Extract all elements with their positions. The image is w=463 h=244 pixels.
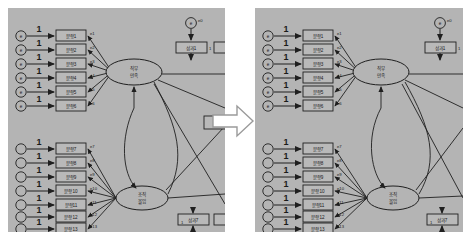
weight-label: 1 — [36, 137, 41, 147]
structural-path — [168, 194, 225, 198]
error-tag: e8 — [90, 158, 95, 163]
error-label: e — [190, 21, 193, 26]
weight-label: 1 — [36, 179, 41, 189]
error-tag: e7 — [90, 144, 95, 149]
error-tag: e10 — [337, 186, 345, 191]
error-tag: e13 — [90, 224, 98, 229]
error-tag: e2 — [90, 45, 95, 50]
weight-label: 1 — [283, 165, 288, 175]
latent-factor-label-line1: 조직 — [138, 191, 146, 198]
weight-label: 1 — [283, 80, 288, 90]
error-tag: e9 — [337, 172, 342, 177]
error-circle-e7[interactable] — [16, 144, 26, 154]
weight-label: 1 — [283, 205, 288, 215]
error-tag: e11 — [337, 200, 344, 205]
error-circle-e12[interactable] — [16, 212, 26, 222]
error-circle-e9[interactable] — [16, 172, 26, 182]
indicator-label: 문항2 — [66, 47, 77, 53]
error-tag: e0 — [447, 18, 452, 23]
error-tag: e3 — [337, 59, 342, 64]
latent-factor-label-line1: 직무 — [130, 65, 138, 72]
diagram-panel-initial: e e e e e e 1 1 1 1 1 1 — [8, 8, 225, 232]
factor-covariance-curve — [371, 108, 385, 188]
error-tag: e2 — [337, 45, 342, 50]
error-label: e — [267, 34, 270, 39]
sem-diagram-right: e e e e e e 1 1 1 1 1 1 — [255, 8, 463, 232]
indicator-label: 문항5 — [66, 89, 77, 95]
structural-path — [419, 196, 463, 198]
error-circle-e11[interactable] — [263, 200, 273, 210]
error-circle-e8[interactable] — [263, 158, 273, 168]
latent-factor-ellipse[interactable] — [353, 59, 409, 85]
indicator-label: 문항11 — [65, 202, 78, 208]
structural-path — [402, 84, 463, 198]
weight-label: 1 — [36, 94, 41, 104]
indicator-label: 문항6 — [313, 103, 324, 109]
error-label: e — [267, 104, 270, 109]
indicator-label: 문항13 — [311, 226, 325, 232]
indicator-label: 문항2 — [313, 47, 324, 53]
outcome-box-partial[interactable] — [214, 42, 225, 53]
indicator-label: 문항12 — [311, 214, 325, 220]
indicator-label: 문항1 — [66, 33, 77, 39]
latent-factor-label-line2: 몰입 — [138, 198, 146, 205]
error-circle-e9[interactable] — [263, 172, 273, 182]
factor-group-bottom: 1 1 1 1 1 1 1 문항7 문항8 문항9 문항10 문항11 문항1 — [16, 137, 168, 232]
error-tag: e4 — [337, 73, 342, 78]
weight-label: 1 — [209, 46, 212, 51]
error-tag: e12 — [90, 212, 98, 217]
indicator-label: 문항3 — [66, 61, 77, 67]
error-circle-e10[interactable] — [263, 186, 273, 196]
error-circle-e12[interactable] — [263, 212, 273, 222]
indicator-label: 문항9 — [66, 174, 77, 180]
latent-factor-ellipse[interactable] — [106, 59, 162, 85]
error-tag: e1 — [337, 31, 342, 36]
factor-group-top: e e e e e e 1 1 1 1 1 1 — [263, 24, 409, 111]
error-circle-e8[interactable] — [16, 158, 26, 168]
indicator-label: 문항8 — [66, 160, 77, 166]
indicator-label: 문항7 — [313, 146, 324, 152]
latent-factor-ellipse[interactable] — [367, 186, 419, 210]
error-tag: e5 — [90, 87, 95, 92]
indicator-label: 문항1 — [313, 33, 324, 39]
weight-label: 1 — [36, 38, 41, 48]
error-tag: e8 — [337, 158, 342, 163]
error-circle-e13[interactable] — [263, 224, 273, 232]
weight-label: 1 — [283, 193, 288, 203]
weight-label: 1 — [36, 151, 41, 161]
latent-factor-label-line1: 조직 — [389, 191, 397, 198]
error-label: e — [20, 62, 23, 67]
weight-label: 1 — [36, 80, 41, 90]
error-label: e — [439, 21, 442, 26]
weight-label: 1 — [36, 24, 41, 34]
error-circle-e10[interactable] — [16, 186, 26, 196]
error-circle-e11[interactable] — [16, 200, 26, 210]
weight-label: 1 — [36, 165, 41, 175]
outcome-label: 성과7 — [188, 217, 199, 224]
structural-curves — [371, 74, 463, 198]
structural-path — [405, 80, 463, 108]
factor-group-bottom: 1 1 1 1 1 1 1 문항7 문항8 문항9 문항10 문항11 문항1 — [263, 137, 419, 232]
error-tag: e6 — [90, 101, 95, 106]
error-circle-e13[interactable] — [16, 224, 26, 232]
indicator-label: 문항4 — [66, 75, 77, 81]
outcome-label: 성과1 — [435, 45, 446, 52]
error-label: e — [267, 62, 270, 67]
error-tag: e11 — [90, 200, 97, 205]
weight-label: 1 — [283, 52, 288, 62]
weight-label: 1 — [36, 52, 41, 62]
indicator-label: 문항13 — [64, 226, 78, 232]
error-tag: e0 — [198, 18, 203, 23]
error-label: e — [20, 34, 23, 39]
latent-factor-ellipse[interactable] — [116, 186, 168, 210]
error-tag: e12 — [337, 212, 345, 217]
weight-label: 1 — [283, 217, 288, 227]
indicator-label: 문항6 — [66, 103, 77, 109]
weight-label: 1 — [458, 46, 461, 51]
outcome-group-top: e e0 성과1 1 — [425, 18, 461, 60]
error-circle-e7[interactable] — [263, 144, 273, 154]
outcome-box-partial[interactable] — [214, 214, 225, 225]
latent-factor-label-line2: 몰입 — [389, 198, 397, 205]
weight-label: 1 — [283, 66, 288, 76]
weight-label: 1 — [283, 179, 288, 189]
